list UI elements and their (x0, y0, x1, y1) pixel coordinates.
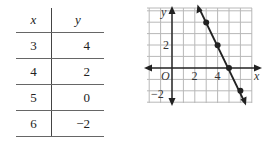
x-tick-label-2: 2 (192, 69, 198, 83)
line-arrow-bottom-icon (241, 97, 247, 106)
cell-y: −2 (52, 111, 105, 137)
table-header-row: x y (16, 8, 104, 33)
header-y: y (52, 8, 105, 33)
table-row: 5 0 (16, 85, 104, 111)
y-axis-label: y (160, 5, 167, 19)
cell-y: 0 (52, 85, 105, 111)
table-row: 3 4 (16, 33, 104, 59)
y-tick-label-2: 2 (163, 38, 169, 52)
y-tick-label-neg2: −2 (151, 87, 164, 101)
point-4-2 (215, 42, 221, 48)
table-row: 4 2 (16, 59, 104, 85)
point-3-4 (203, 19, 209, 25)
cell-y: 4 (52, 33, 105, 59)
cell-x: 3 (16, 33, 52, 59)
xy-table: x y 3 4 4 2 5 0 6 −2 (16, 8, 104, 137)
cell-x: 6 (16, 111, 52, 137)
cell-x: 5 (16, 85, 52, 111)
origin-label: O (161, 69, 170, 83)
line-graph: y x O 2 4 2 −2 (140, 0, 267, 110)
x-tick-label-4: 4 (215, 69, 221, 83)
y-axis-arrow-up-icon (169, 6, 176, 14)
cell-y: 2 (52, 59, 105, 85)
point-5-0 (226, 65, 232, 71)
point-6-neg2 (237, 88, 243, 94)
xy-table-container: x y 3 4 4 2 5 0 6 −2 (16, 8, 104, 137)
header-x: x (16, 8, 52, 33)
cell-x: 4 (16, 59, 52, 85)
table-row: 6 −2 (16, 111, 104, 137)
x-axis-label: x (253, 69, 260, 83)
x-axis-arrow-left-icon (144, 65, 152, 72)
